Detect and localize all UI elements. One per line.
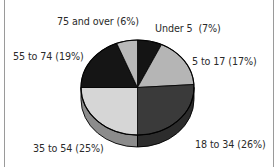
label-18-to-34: 18 to 34 (26%) bbox=[195, 139, 266, 151]
chart-frame: 75 and over (6%) Under 5 (7%) 55 to 74 (… bbox=[0, 0, 276, 167]
label-under-5: Under 5 (7%) bbox=[155, 23, 221, 35]
label-55-to-74: 55 to 74 (19%) bbox=[13, 51, 84, 63]
pie-slice-35-to-54 bbox=[81, 88, 138, 136]
pie-slice-18-to-34 bbox=[138, 85, 195, 135]
label-5-to-17: 5 to 17 (17%) bbox=[192, 56, 257, 68]
label-75-and-over: 75 and over (6%) bbox=[57, 16, 139, 28]
label-35-to-54: 35 to 54 (25%) bbox=[33, 143, 104, 155]
